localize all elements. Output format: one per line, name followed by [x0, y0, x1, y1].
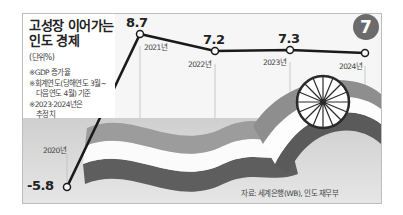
year-label-2020: 2020년 — [43, 144, 66, 155]
title-panel: 고성장 이어가는 인도 경제 (단위%) ※GDP 증가율 ※회계연도(당해연도… — [23, 14, 115, 118]
year-label-2021: 2021년 — [144, 41, 167, 52]
value-label-2023: 7.3 — [278, 31, 300, 46]
value-label-2022: 7.2 — [203, 32, 225, 47]
value-badge-2024: 7 — [353, 14, 379, 40]
value-label-2020: -5.8 — [27, 178, 53, 193]
source-note: 자료: 세계은행(WB), 인도 재무부 — [241, 187, 338, 198]
note: 추정치 — [29, 110, 106, 121]
chart-frame: 고성장 이어가는 인도 경제 (단위%) ※GDP 증가율 ※회계연도(당해연도… — [22, 13, 382, 204]
year-label-2024: 2024년 — [339, 60, 362, 71]
title-line-1: 고성장 이어가는 — [29, 18, 114, 33]
india-flag-ribbon — [83, 76, 381, 192]
value-label-2021: 8.7 — [126, 15, 148, 30]
chart-notes: ※GDP 증가율 ※회계연도(당해연도 3월~ 다음연도 4월) 기준 ※202… — [29, 68, 106, 121]
note: ※GDP 증가율 — [29, 68, 106, 79]
note: 다음연도 4월) 기준 — [29, 89, 106, 100]
year-label-2022: 2022년 — [188, 58, 211, 69]
title-line-2: 인도 경제 — [29, 33, 114, 48]
note: ※회계연도(당해연도 3월~ — [29, 79, 106, 90]
unit-label: (단위%) — [29, 51, 54, 62]
year-label-2023: 2023년 — [263, 56, 286, 67]
note: ※2023·2024년은 — [29, 100, 106, 111]
chart-title: 고성장 이어가는 인도 경제 — [29, 18, 114, 48]
